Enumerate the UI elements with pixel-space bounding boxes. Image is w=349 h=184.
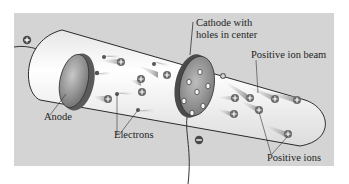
plus-ion-icon	[230, 110, 238, 118]
plus-ion-icon	[104, 95, 112, 103]
plus-ion-icon	[137, 75, 145, 83]
anode-terminal-plus-icon	[23, 36, 31, 44]
plus-ion-icon	[284, 130, 292, 138]
plus-ion-icon	[271, 95, 279, 103]
label-cathode-line2: holes in center	[196, 29, 257, 41]
plus-ion-icon	[220, 73, 226, 79]
plus-ion-icon	[138, 88, 146, 96]
plus-ion-icon	[117, 58, 125, 66]
label-anode: Anode	[44, 111, 72, 123]
label-cathode-line1: Cathode with	[196, 17, 257, 29]
label-cathode: Cathode with holes in center	[196, 17, 257, 41]
cathode-terminal-minus-icon	[195, 136, 203, 144]
cathode-top-wire	[190, 22, 193, 55]
label-positive-ion-beam: Positive ion beam	[251, 49, 326, 61]
label-electrons: Electrons	[114, 129, 154, 141]
plus-ion-icon	[163, 71, 171, 79]
label-positive-ions: Positive ions	[267, 152, 321, 164]
cathode-bottom-wire	[187, 117, 190, 184]
plus-ion-icon	[293, 96, 301, 104]
plus-ion-icon	[231, 94, 239, 102]
plus-ion-icon	[246, 94, 254, 102]
